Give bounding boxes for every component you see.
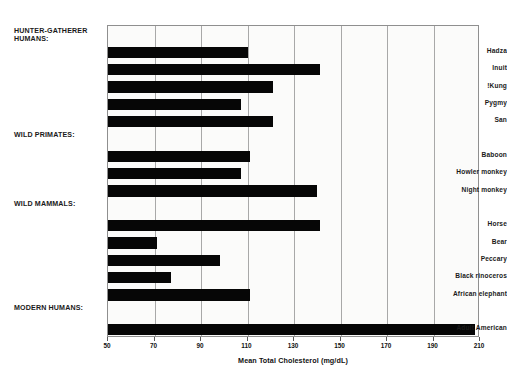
group-row — [108, 26, 478, 43]
category-label-night-monkey: Night monkey — [403, 186, 507, 194]
category-label-baboon: Baboon — [403, 151, 507, 159]
group-row — [108, 303, 478, 320]
category-label-kung: !Kung — [403, 82, 507, 90]
group-header-wild-mammals: WILD MAMMALS: — [14, 200, 134, 208]
bar-hadza — [108, 47, 248, 59]
tick-label-210: 210 — [464, 342, 494, 349]
cholesterol-bar-chart-figure: HUNTER-GATHERER HUMANS:HadzaInuit!KungPy… — [0, 0, 507, 387]
category-label-inuit: Inuit — [403, 64, 507, 72]
tick-mark-150 — [340, 337, 341, 341]
bar-san — [108, 116, 273, 128]
bar-peccary — [108, 255, 220, 267]
bar-inuit — [108, 64, 320, 76]
tick-mark-130 — [293, 337, 294, 341]
tick-label-150: 150 — [325, 342, 355, 349]
bar-bear — [108, 237, 157, 249]
group-header-modern-humans: MODERN HUMANS: — [14, 304, 134, 312]
category-label-adult-american: Adult American — [403, 324, 507, 332]
category-label-black-rinoceros: Black rinoceros — [403, 272, 507, 280]
tick-label-70: 70 — [139, 342, 169, 349]
bar-howler-monkey — [108, 168, 241, 180]
group-header-hunter-gatherer-humans: HUNTER-GATHERER HUMANS: — [14, 27, 134, 43]
category-label-hadza: Hadza — [403, 47, 507, 55]
category-label-peccary: Peccary — [403, 255, 507, 263]
tick-label-130: 130 — [278, 342, 308, 349]
bar-black-rinoceros — [108, 272, 171, 284]
category-label-horse: Horse — [403, 220, 507, 228]
tick-mark-70 — [154, 337, 155, 341]
category-label-howler-monkey: Howler monkey — [403, 168, 507, 176]
bar-horse — [108, 220, 320, 232]
tick-label-90: 90 — [185, 342, 215, 349]
tick-label-190: 190 — [418, 342, 448, 349]
tick-label-170: 170 — [371, 342, 401, 349]
category-label-african-elephant: African elephant — [403, 290, 507, 298]
bar-baboon — [108, 151, 250, 163]
tick-mark-190 — [433, 337, 434, 341]
category-label-bear: Bear — [403, 238, 507, 246]
bar-night-monkey — [108, 185, 317, 197]
tick-label-110: 110 — [232, 342, 262, 349]
x-axis-title: Mean Total Cholesterol (mg/dL) — [107, 356, 479, 365]
bar-african-elephant — [108, 289, 250, 301]
group-row — [108, 130, 478, 147]
tick-mark-210 — [479, 337, 480, 341]
bar-pygmy — [108, 99, 241, 111]
tick-mark-90 — [200, 337, 201, 341]
category-label-san: San — [403, 116, 507, 124]
group-header-wild-primates: WILD PRIMATES: — [14, 131, 134, 139]
tick-mark-50 — [107, 337, 108, 341]
category-label-pygmy: Pygmy — [403, 99, 507, 107]
tick-mark-170 — [386, 337, 387, 341]
bar-kung — [108, 81, 273, 93]
tick-label-50: 50 — [92, 342, 122, 349]
tick-mark-110 — [247, 337, 248, 341]
group-row — [108, 199, 478, 216]
